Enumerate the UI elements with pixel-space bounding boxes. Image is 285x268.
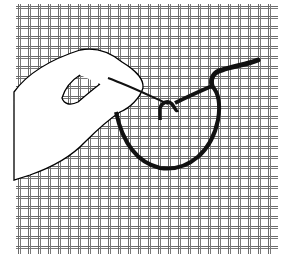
hand	[14, 49, 143, 180]
yarn-knot	[160, 102, 178, 120]
illustration	[0, 0, 285, 268]
yarn-tail	[211, 60, 258, 86]
